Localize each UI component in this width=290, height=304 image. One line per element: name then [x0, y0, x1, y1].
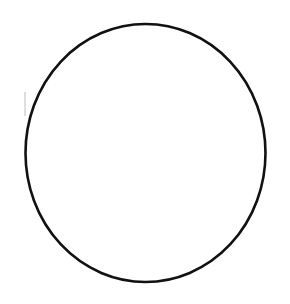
circle-outline — [26, 24, 266, 282]
diagram-canvas — [0, 0, 290, 304]
